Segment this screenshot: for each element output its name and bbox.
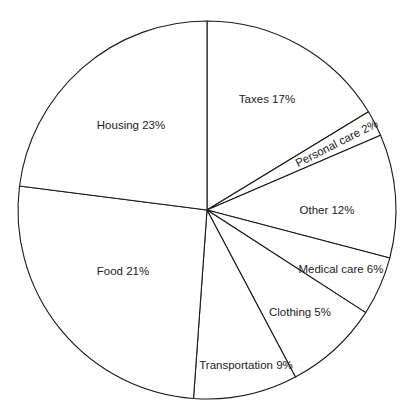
pie-slice-housing (20, 21, 207, 210)
pie-chart: Taxes 17%Personal care 2%Other 12%Medica… (0, 0, 406, 418)
slice-label-medical-care: Medical care 6% (298, 263, 383, 275)
slice-label-other: Other 12% (300, 204, 355, 216)
pie-slice-food (18, 186, 207, 399)
slice-label-housing: Housing 23% (97, 119, 165, 131)
slice-label-food: Food 21% (97, 265, 149, 277)
slice-label-transportation: Transportation 9% (199, 359, 293, 371)
slice-label-taxes: Taxes 17% (239, 93, 295, 105)
slice-label-clothing: Clothing 5% (269, 306, 331, 318)
